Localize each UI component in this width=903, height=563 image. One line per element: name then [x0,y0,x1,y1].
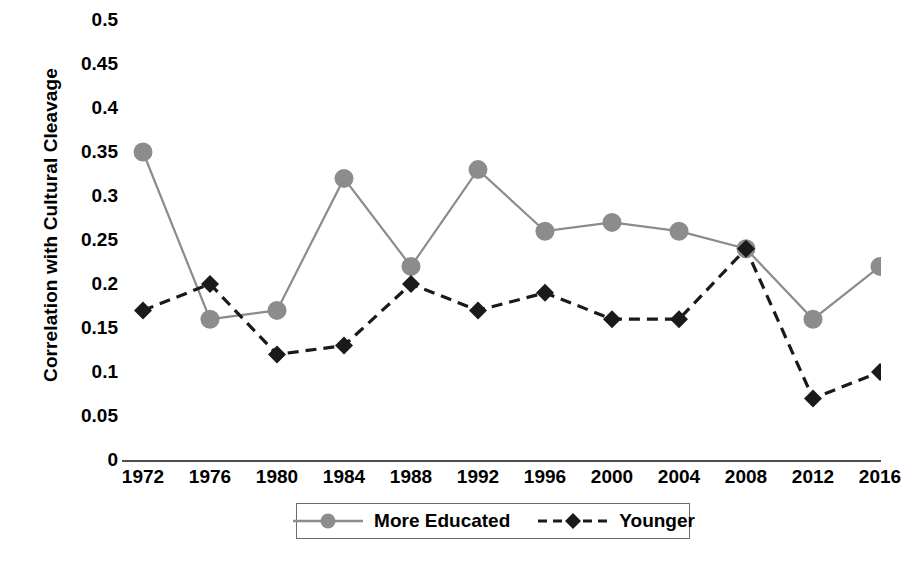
x-tick-label: 1972 [122,466,164,488]
legend-item-younger: Younger [536,510,695,532]
y-tick-label: 0.25 [40,229,118,251]
y-tick-label: 0.5 [40,9,118,31]
data-point-marker [871,363,881,381]
data-point-marker [469,160,488,179]
data-point-marker [268,301,287,320]
y-tick-label: 0.1 [40,361,118,383]
x-tick-label: 2004 [658,466,700,488]
x-tick-label: 1992 [457,466,499,488]
x-tick-label: 2016 [859,466,901,488]
x-tick-label: 1980 [256,466,298,488]
data-point-marker [804,310,823,329]
legend-swatch-circle-line-icon [291,512,365,530]
data-point-marker [335,337,353,355]
data-point-marker [402,257,421,276]
data-point-marker [469,301,487,319]
data-point-marker [134,143,153,162]
legend-label-younger: Younger [619,510,695,532]
data-point-marker [268,345,286,363]
data-point-marker [536,284,554,302]
data-point-marker [335,169,354,188]
data-point-marker [804,389,822,407]
series-plot [122,20,881,461]
plot-area [122,20,881,461]
x-axis-line [122,460,881,462]
y-tick-label: 0.45 [40,53,118,75]
y-tick-label: 0.15 [40,317,118,339]
data-point-marker [536,222,555,241]
x-axis-tick-labels: 1972197619801984198819921996200020042008… [0,466,903,496]
data-point-marker [670,222,689,241]
y-tick-label: 0.2 [40,273,118,295]
series-line-more-educated [143,152,880,319]
x-tick-label: 1976 [189,466,231,488]
x-tick-label: 2000 [591,466,633,488]
x-tick-label: 2008 [725,466,767,488]
x-tick-label: 2012 [792,466,834,488]
y-tick-label: 0.05 [40,405,118,427]
data-point-marker [201,310,220,329]
y-tick-label: 0.4 [40,97,118,119]
data-point-marker [402,275,420,293]
legend-swatch-diamond-dashed-icon [536,512,610,530]
legend-label-more-educated: More Educated [374,510,510,532]
chart-container: Correlation with Cultural Cleavage 00.05… [0,0,903,563]
x-tick-label: 1984 [323,466,365,488]
data-point-marker [134,301,152,319]
data-point-marker [603,310,621,328]
series-line-younger [143,249,880,399]
y-tick-label: 0.3 [40,185,118,207]
chart-legend: More Educated Younger [296,503,690,539]
x-tick-label: 1988 [390,466,432,488]
y-tick-label: 0.35 [40,141,118,163]
x-tick-label: 1996 [524,466,566,488]
data-point-marker [603,213,622,232]
legend-item-more-educated: More Educated [291,510,510,532]
